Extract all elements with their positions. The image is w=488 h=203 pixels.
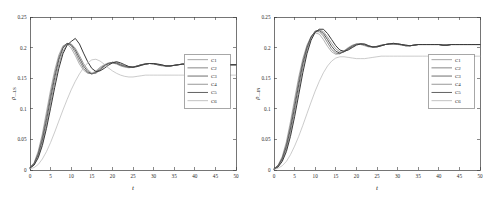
x-tick-label: 35	[416, 173, 422, 179]
x-tick-label: 5	[293, 173, 296, 179]
x-tick-label: 15	[89, 173, 95, 179]
y-tick-label: 0.1	[20, 106, 27, 112]
y-tick-label: 0.1	[264, 106, 271, 112]
legend-box	[428, 54, 474, 108]
y-tick-label: 0.2	[264, 45, 271, 51]
x-tick-label: 5	[49, 173, 52, 179]
legend-label-c2: C2	[455, 66, 461, 71]
legend-label-c6: C6	[455, 99, 461, 104]
legend-label-c1: C1	[211, 58, 217, 63]
y-tick-label: 0.15	[17, 75, 26, 81]
x-tick-label: 40	[436, 173, 442, 179]
x-tick-label: 20	[354, 173, 360, 179]
x-tick-label: 40	[192, 173, 198, 179]
plot-area-right: 0510152025303540455000.050.10.150.20.25t…	[254, 14, 483, 192]
x-axis-title: t	[376, 184, 379, 192]
x-tick-label: 10	[313, 173, 319, 179]
legend-label-c2: C2	[211, 66, 217, 71]
y-axis-title: ρ—IN	[254, 87, 261, 101]
y-tick-label: 0.05	[17, 136, 26, 142]
y-tick-label: 0.05	[261, 136, 270, 142]
x-tick-label: 25	[130, 173, 136, 179]
x-tick-label: 0	[273, 173, 276, 179]
x-tick-label: 50	[233, 173, 239, 179]
x-axis-title: t	[132, 184, 135, 192]
chart-panel-right: 0510152025303540455000.050.10.150.20.25t…	[244, 0, 488, 203]
y-tick-label: 0	[24, 167, 27, 173]
legend-label-c1: C1	[455, 58, 461, 63]
x-tick-label: 10	[69, 173, 75, 179]
chart-panel-left: 0510152025303540455000.050.10.150.20.25t…	[0, 0, 244, 203]
plot-area-left: 0510152025303540455000.050.10.150.20.25t…	[10, 14, 239, 192]
x-tick-label: 45	[457, 173, 463, 179]
x-tick-label: 25	[374, 173, 380, 179]
x-tick-label: 0	[29, 173, 32, 179]
y-tick-label: 0.2	[20, 45, 27, 51]
x-tick-label: 50	[477, 173, 483, 179]
legend-label-c4: C4	[455, 82, 461, 87]
y-axis-title-subscript: —IN	[256, 87, 261, 98]
legend-label-c5: C5	[211, 90, 217, 95]
x-tick-label: 30	[151, 173, 157, 179]
line-chart-left: 0510152025303540455000.050.10.150.20.25t…	[0, 0, 244, 203]
y-axis-title-subscript: —LS	[12, 87, 17, 98]
x-tick-label: 30	[395, 173, 401, 179]
y-tick-label: 0.15	[261, 75, 270, 81]
x-tick-label: 45	[213, 173, 219, 179]
figure-container: 0510152025303540455000.050.10.150.20.25t…	[0, 0, 488, 203]
legend-label-c4: C4	[211, 82, 217, 87]
legend-box	[184, 54, 230, 108]
x-tick-label: 20	[110, 173, 116, 179]
legend-label-c5: C5	[455, 90, 461, 95]
x-tick-label: 35	[172, 173, 178, 179]
x-tick-label: 15	[333, 173, 339, 179]
y-tick-label: 0	[268, 167, 271, 173]
legend-label-c3: C3	[455, 74, 461, 79]
y-axis-title-text: ρ—LS	[10, 87, 17, 101]
legend-label-c6: C6	[211, 99, 217, 104]
line-chart-right: 0510152025303540455000.050.10.150.20.25t…	[244, 0, 488, 203]
y-tick-label: 0.25	[261, 14, 270, 20]
y-axis-title-text: ρ—IN	[254, 87, 261, 101]
y-tick-label: 0.25	[17, 14, 26, 20]
legend-label-c3: C3	[211, 74, 217, 79]
y-axis-title: ρ—LS	[10, 87, 17, 101]
